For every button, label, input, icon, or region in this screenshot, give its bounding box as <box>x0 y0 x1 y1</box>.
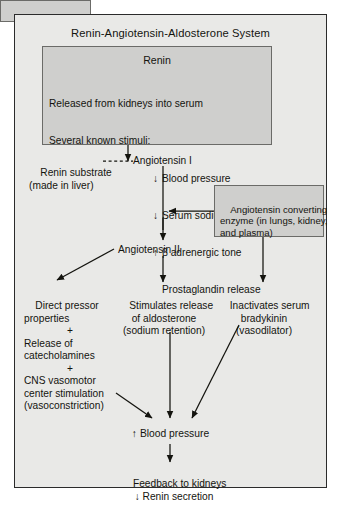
up-arrow-icon: ↑ <box>132 428 137 439</box>
left-effect-1-line-2: properties <box>24 313 69 324</box>
renin-substrate-line-2: (made in liver) <box>29 180 94 191</box>
left-effect-3-line-3: (vasoconstriction) <box>24 400 104 411</box>
angiotensin-ii-label: Angiotensin II <box>118 244 180 256</box>
renin-substrate-label: Renin substrate (made in liver) <box>29 155 112 205</box>
blood-pressure-label: Blood pressure <box>140 428 209 439</box>
right-effect-line-3: (vasodilator) <box>236 325 292 336</box>
right-effect-line-1: Inactivates serum <box>230 300 310 311</box>
middle-effect-line-1: Stimulates release <box>129 300 213 311</box>
ace-line-2: enzyme (in lungs, kidney, <box>220 215 328 226</box>
left-plus-1: + <box>24 325 116 337</box>
left-effect-3-line-2: center stimulation <box>24 388 104 399</box>
blood-pressure-text: ↑ Blood pressure <box>126 428 215 441</box>
ace-line-3: and plasma) <box>220 227 273 238</box>
left-effect-2-line-2: catecholamines <box>24 350 95 361</box>
effects-middle-column: Stimulates release of aldosterone (sodiu… <box>118 288 210 350</box>
feedback-text: Feedback to kidneys ↓ Renin secretion <box>110 466 238 515</box>
renin-stimuli-label: Several known stimuli: <box>49 135 271 147</box>
left-plus-2: + <box>24 363 116 375</box>
renin-substrate-line-1: Renin substrate <box>40 167 111 178</box>
renin-released-line: Released from kidneys into serum <box>49 98 271 110</box>
down-arrow-icon: ↓ <box>153 210 162 222</box>
left-effect-2-line-1: Release of <box>24 338 73 349</box>
feedback-line-2: Renin secretion <box>143 491 214 502</box>
left-effect-3-line-1: CNS vasomotor <box>24 375 96 386</box>
middle-effect-line-3: (sodium retention) <box>123 325 205 336</box>
angiotensin-i-label: Angiotensin I <box>133 155 192 167</box>
renin-box-heading: Renin <box>42 54 272 67</box>
ace-line-1: Angiotensin converting <box>230 204 327 215</box>
figure-renin-angiotensin-aldosterone-diagram: Angiotensin I --> Renin-Angiotensin-Ald <box>0 0 345 515</box>
effects-left-column: Direct pressor properties +Release of ca… <box>24 288 116 425</box>
effects-right-column: Inactivates serum bradykinin (vasodilato… <box>216 288 312 350</box>
diagram-title: Renin-Angiotensin-Aldosterone System <box>14 27 327 41</box>
left-effect-1-line-1: Direct pressor <box>35 300 98 311</box>
middle-effect-line-2: of aldosterone <box>132 313 197 324</box>
right-effect-line-2: bradykinin <box>241 313 287 324</box>
renin-stimulus-1-label: Blood pressure <box>162 173 231 184</box>
ace-box-text: Angiotensin converting enzyme (in lungs,… <box>220 192 324 251</box>
down-arrow-icon: ↓ <box>153 173 162 185</box>
feedback-line-1: Feedback to kidneys <box>133 478 226 489</box>
down-arrow-icon: ↓ <box>135 491 140 502</box>
